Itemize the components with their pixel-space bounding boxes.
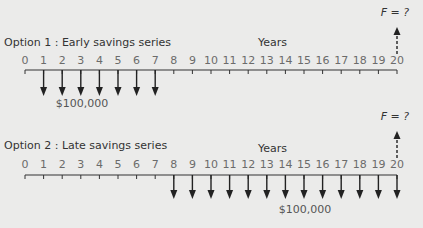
tick-label: 9 [189,158,196,171]
tick-label: 12 [241,158,255,171]
axis-label-years: Years [257,36,287,49]
tick-label: 4 [96,158,103,171]
tick-label: 14 [278,54,292,67]
tick-label: 5 [115,54,122,67]
tick-label: 8 [170,158,177,171]
down-arrow-icon [301,190,308,199]
tick-label: 20 [390,158,404,171]
tick-label: 10 [204,54,218,67]
option-title: Option 2 : Late savings series [4,139,167,152]
tick-label: 10 [204,158,218,171]
down-arrow-icon [40,87,47,96]
up-arrow-icon [394,131,401,139]
down-arrow-icon [96,87,103,96]
tick-label: 4 [96,54,103,67]
down-arrow-icon [282,190,289,199]
tick-label: 3 [77,158,84,171]
tick-label: 16 [316,54,330,67]
tick-label: 14 [278,158,292,171]
deposit-amount: $100,000 [279,203,332,216]
option-2-timeline: Option 2 : Late savings seriesYears01234… [4,110,409,216]
tick-label: 19 [371,54,385,67]
option-title: Option 1 : Early savings series [4,36,171,49]
tick-label: 13 [260,54,274,67]
down-arrow-icon [115,87,122,96]
tick-label: 11 [223,54,237,67]
tick-label: 2 [59,54,66,67]
down-arrow-icon [338,190,345,199]
down-arrow-icon [208,190,215,199]
axis-label-years: Years [257,142,287,155]
tick-label: 3 [77,54,84,67]
down-arrow-icon [170,190,177,199]
tick-label: 0 [22,158,29,171]
tick-label: 8 [170,54,177,67]
up-arrow-icon [394,27,401,35]
tick-label: 13 [260,158,274,171]
down-arrow-icon [226,190,233,199]
down-arrow-icon [152,87,159,96]
tick-label: 5 [115,158,122,171]
deposit-amount: $100,000 [56,97,109,110]
down-arrow-icon [394,190,401,199]
tick-label: 19 [371,158,385,171]
future-value-label: F = ? [381,6,410,19]
tick-label: 15 [297,54,311,67]
tick-label: 6 [133,158,140,171]
tick-label: 2 [59,158,66,171]
down-arrow-icon [133,87,140,96]
down-arrow-icon [375,190,382,199]
tick-label: 9 [189,54,196,67]
down-arrow-icon [245,190,252,199]
down-arrow-icon [189,190,196,199]
down-arrow-icon [319,190,326,199]
option-1-timeline: Option 1 : Early savings seriesYears0123… [4,6,409,110]
tick-label: 15 [297,158,311,171]
tick-label: 17 [334,158,348,171]
tick-label: 12 [241,54,255,67]
future-value-label: F = ? [381,110,410,123]
tick-label: 20 [390,54,404,67]
tick-label: 18 [353,54,367,67]
tick-label: 1 [40,54,47,67]
cash-flow-diagram: Option 1 : Early savings seriesYears0123… [0,0,423,228]
down-arrow-icon [77,87,84,96]
tick-label: 1 [40,158,47,171]
tick-label: 18 [353,158,367,171]
tick-label: 17 [334,54,348,67]
tick-label: 0 [22,54,29,67]
tick-label: 6 [133,54,140,67]
tick-label: 7 [152,54,159,67]
down-arrow-icon [263,190,270,199]
down-arrow-icon [356,190,363,199]
tick-label: 7 [152,158,159,171]
tick-label: 16 [316,158,330,171]
down-arrow-icon [59,87,66,96]
tick-label: 11 [223,158,237,171]
